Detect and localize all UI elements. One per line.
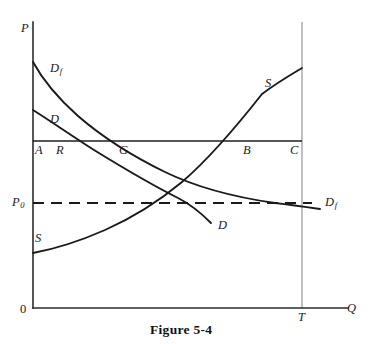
figure-caption: Figure 5-4 (150, 322, 212, 338)
quota-quantity-label: T (298, 311, 305, 324)
demand-subsidy-curve-label: Df (50, 62, 62, 76)
demand-subsidy-end-label: Df (325, 196, 337, 210)
demand-curve-label: D (50, 113, 59, 126)
point-label-r: R (56, 144, 64, 157)
demand-subsidy-label-subscript: f (59, 66, 62, 76)
point-label-b: B (243, 144, 251, 157)
equilibrium-price-letter: P (12, 195, 20, 209)
demand-subsidy-end-subscript: f (334, 200, 337, 210)
figure-drawing (0, 0, 371, 344)
point-label-a: A (35, 144, 43, 157)
supply-curve (33, 68, 302, 253)
demand-subsidy-end-letter: D (325, 195, 334, 209)
figure-container: P Q 0 P0 T Df D S S D Df A R G B C Figur… (0, 0, 371, 344)
point-label-c: C (290, 144, 299, 157)
supply-curve-label-lower: S (35, 232, 41, 245)
price-axis-label: P (21, 22, 29, 35)
quantity-axis-label: Q (347, 302, 356, 315)
supply-curve-label-upper: S (265, 77, 271, 90)
demand-free-market-curve (33, 110, 211, 223)
point-label-g: G (119, 144, 128, 157)
demand-subsidy-label-letter: D (50, 61, 59, 75)
equilibrium-price-label: P0 (12, 196, 25, 210)
demand-curve-end-label: D (218, 219, 227, 232)
equilibrium-price-subscript: 0 (20, 200, 25, 210)
origin-label: 0 (20, 303, 26, 316)
